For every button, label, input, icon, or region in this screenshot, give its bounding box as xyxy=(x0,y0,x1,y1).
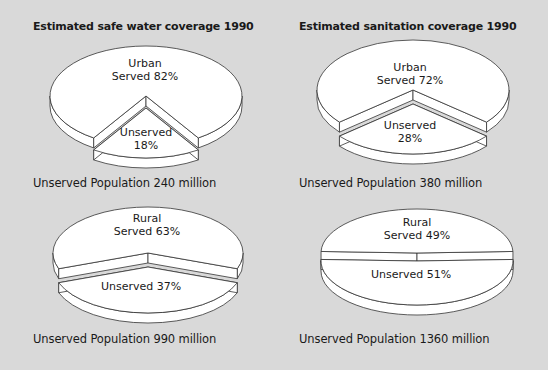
group-label: Rural xyxy=(384,216,450,229)
served-percent: Served 63% xyxy=(114,225,180,238)
served-percent: Served 82% xyxy=(112,70,178,83)
unserved-text: Unserved 51% xyxy=(371,268,451,281)
pie-chart xyxy=(0,0,274,185)
served-label: Rural Served 63% xyxy=(114,212,180,238)
chart-urban-sanitation: Estimated sanitation coverage 1990 Urban… xyxy=(274,0,548,185)
unserved-population: Unserved Population 990 million xyxy=(33,332,216,346)
unserved-percent: 28% xyxy=(384,132,436,145)
chart-rural-sanitation: Rural Served 49% Unserved 51% Unserved P… xyxy=(274,185,548,370)
unserved-slice xyxy=(59,267,238,323)
unserved-label: Unserved 37% xyxy=(101,280,181,293)
group-label: Urban xyxy=(377,61,443,74)
group-label: Rural xyxy=(114,212,180,225)
served-label: Urban Served 82% xyxy=(112,57,178,83)
group-label: Urban xyxy=(112,57,178,70)
unserved-population: Unserved Population 1360 million xyxy=(299,332,489,346)
served-percent: Served 72% xyxy=(377,74,443,87)
served-percent: Served 49% xyxy=(384,229,450,242)
served-label: Rural Served 49% xyxy=(384,216,450,242)
pie-chart xyxy=(274,0,548,185)
unserved-label: Unserved 28% xyxy=(384,119,436,145)
unserved-label: Unserved 18% xyxy=(120,126,172,152)
served-label: Urban Served 72% xyxy=(377,61,443,87)
unserved-text: Unserved 37% xyxy=(101,280,181,293)
unserved-percent: 18% xyxy=(120,139,172,152)
chart-rural-water: Rural Served 63% Unserved 37% Unserved P… xyxy=(0,185,274,370)
chart-urban-water: Estimated safe water coverage 1990 Urban… xyxy=(0,0,274,185)
unserved-text: Unserved xyxy=(120,126,172,139)
unserved-text: Unserved xyxy=(384,119,436,132)
unserved-label: Unserved 51% xyxy=(371,268,451,281)
